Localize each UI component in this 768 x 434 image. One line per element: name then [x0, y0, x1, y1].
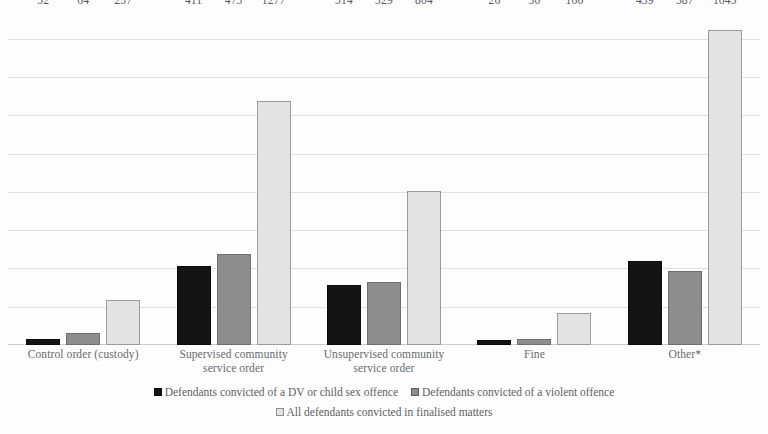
x-axis-category-label: Other* — [610, 348, 760, 375]
bar: 237 — [106, 300, 140, 345]
bar: 166 — [557, 313, 591, 345]
bar-groups: 3264237411473127731432980426301664393871… — [8, 8, 760, 345]
chart-page: 3264237411473127731432980426301664393871… — [0, 0, 768, 434]
legend-label: All defendants convicted in finalised ma… — [287, 407, 493, 419]
bar-column: 439 — [628, 8, 662, 345]
bar-group: 314329804 — [309, 8, 459, 345]
bar: 1643 — [708, 30, 742, 345]
x-axis-category-label: Fine — [459, 348, 609, 375]
bar-column: 387 — [668, 8, 702, 345]
bar-column: 314 — [327, 8, 361, 345]
legend-item: All defendants convicted in finalised ma… — [276, 404, 493, 419]
bar: 1277 — [257, 101, 291, 346]
bar-column: 26 — [477, 8, 511, 345]
light-gray-square-marker — [276, 408, 284, 416]
legend-row-2: All defendants convicted in finalised ma… — [0, 404, 768, 419]
bar: 411 — [177, 266, 211, 345]
bar-column: 329 — [367, 8, 401, 345]
bar: 30 — [517, 339, 551, 345]
bar-value-label: 30 — [528, 0, 540, 6]
plot-area: 3264237411473127731432980426301664393871… — [8, 8, 760, 345]
bar: 439 — [628, 261, 662, 345]
bar-column: 64 — [66, 8, 100, 345]
x-axis-category-labels: Control order (custody)Supervised commun… — [8, 348, 760, 375]
legend-label: Defendants convicted of a DV or child se… — [165, 386, 398, 398]
bar-group: 4114731277 — [158, 8, 308, 345]
legend-item: Defendants convicted of a violent offenc… — [411, 384, 614, 399]
bar-value-label: 237 — [114, 0, 132, 6]
bar-group: 3264237 — [8, 8, 158, 345]
legend-label: Defendants convicted of a violent offenc… — [422, 386, 614, 398]
x-axis-category-label: Unsupervised communityservice order — [309, 348, 459, 375]
bar-value-label: 166 — [565, 0, 583, 6]
x-axis-category-label: Supervised communityservice order — [158, 348, 308, 375]
bar-column: 30 — [517, 8, 551, 345]
bar-value-label: 314 — [335, 0, 353, 6]
bar: 314 — [327, 285, 361, 345]
bar-column: 1277 — [257, 8, 291, 345]
bar-column: 166 — [557, 8, 591, 345]
chart-legend: Defendants convicted of a DV or child se… — [0, 384, 768, 425]
bar-value-label: 329 — [375, 0, 393, 6]
bar: 387 — [668, 271, 702, 345]
bar: 26 — [477, 340, 511, 345]
legend-row-1: Defendants convicted of a DV or child se… — [0, 384, 768, 399]
bar-column: 32 — [26, 8, 60, 345]
bar-value-label: 411 — [185, 0, 202, 6]
x-axis-category-label: Control order (custody) — [8, 348, 158, 375]
gray-square-marker — [411, 388, 419, 396]
bar-value-label: 473 — [225, 0, 243, 6]
legend-item: Defendants convicted of a DV or child se… — [154, 384, 398, 399]
bar-value-label: 1643 — [713, 0, 737, 6]
bar-column: 1643 — [708, 8, 742, 345]
bar-value-label: 26 — [488, 0, 500, 6]
bar-value-label: 439 — [636, 0, 654, 6]
bar: 64 — [66, 333, 100, 345]
bar-group: 2630166 — [459, 8, 609, 345]
bar-value-label: 64 — [77, 0, 89, 6]
black-square-marker — [154, 388, 162, 396]
bar-value-label: 1277 — [262, 0, 286, 6]
bar-column: 804 — [407, 8, 441, 345]
bar-value-label: 387 — [676, 0, 694, 6]
bar-value-label: 32 — [37, 0, 49, 6]
bar-column: 473 — [217, 8, 251, 345]
bar-group: 4393871643 — [610, 8, 760, 345]
bar: 329 — [367, 282, 401, 345]
bar: 32 — [26, 339, 60, 345]
bar-column: 237 — [106, 8, 140, 345]
bar: 473 — [217, 254, 251, 345]
bar-value-label: 804 — [415, 0, 433, 6]
bar-column: 411 — [177, 8, 211, 345]
bar: 804 — [407, 191, 441, 345]
